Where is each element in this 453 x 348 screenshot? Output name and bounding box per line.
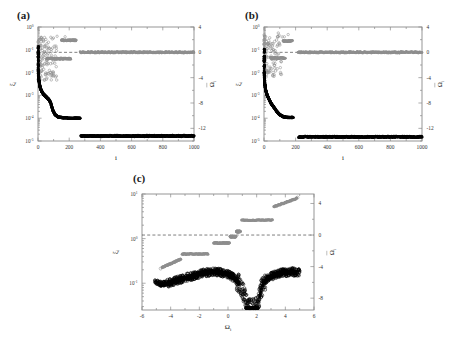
x-axis-title: Ωi — [225, 323, 232, 332]
panel-a: (a) 0200400600800100010010-110-210-310-4… — [0, 0, 226, 180]
y-left-tick-label: 100 — [27, 24, 34, 30]
y-left-tick-label: 10-5 — [25, 138, 33, 144]
ticks: -6-4-2024610110010-140-4-8 — [129, 191, 323, 319]
y-left-tick-label: 100 — [131, 236, 138, 242]
x-tick-label: 1000 — [189, 144, 200, 150]
y-left-tick-label: 10-1 — [25, 47, 33, 53]
x-tick-label: -4 — [168, 313, 173, 319]
x-tick-label: -2 — [197, 313, 202, 319]
svg-text:Ωi: Ωi — [436, 80, 445, 87]
black-cloud — [153, 267, 301, 310]
y-left-tick-label: 10-4 — [251, 115, 259, 121]
x-tick-label: 4 — [284, 313, 287, 319]
y-left-tick-label: 10-2 — [25, 70, 33, 76]
panel-b-plot: 0200400600800100010010-110-210-310-410-5… — [226, 0, 453, 180]
x-tick-label: 2 — [255, 313, 258, 319]
y-right-tick-label: -4 — [319, 264, 324, 270]
x-axis-title: i — [342, 154, 344, 162]
x-axis-title: i — [115, 154, 117, 162]
x-tick-label: 800 — [386, 144, 394, 150]
y-left-tick-label: 10-2 — [251, 70, 259, 76]
x-tick-label: 400 — [323, 144, 331, 150]
x-tick-label: 400 — [96, 144, 104, 150]
y-axis-left-title: ξi — [234, 81, 243, 86]
y-left-tick-label: 10-3 — [251, 92, 259, 98]
x-tick-label: 200 — [65, 144, 73, 150]
y-axis-right-title: Ωi — [327, 248, 337, 255]
x-tick-label: 800 — [159, 144, 167, 150]
y-right-tick-label: -4 — [199, 75, 204, 81]
y-left-tick-label: 10-3 — [25, 92, 33, 98]
y-left-tick-label: 10-5 — [251, 138, 259, 144]
panel-b: (b) 0200400600800100010010-110-210-310-4… — [226, 0, 453, 180]
y-right-tick-label: 4 — [199, 24, 202, 30]
gray-staircase — [159, 196, 299, 270]
y-right-tick-label: -12 — [199, 125, 206, 131]
svg-text:Ωi: Ωi — [328, 248, 337, 255]
x-tick-label: 600 — [355, 144, 363, 150]
y-right-tick-label: 4 — [427, 24, 430, 30]
y-right-tick-label: -4 — [427, 75, 432, 81]
panel-c-plot: -6-4-2024610110010-140-4-8ΩiξiΩi — [100, 172, 353, 348]
panel-a-label: (a) — [17, 9, 30, 21]
y-right-tick-label: 0 — [319, 232, 322, 238]
x-tick-label: 0 — [37, 144, 40, 150]
y-axis-left-title: ξi — [8, 81, 17, 86]
y-left-tick-label: 10-1 — [251, 47, 259, 53]
y-axis-left-title: ξi — [111, 249, 120, 254]
y-right-tick-label: -8 — [199, 100, 204, 106]
ticks: 0200400600800100010010-110-210-310-410-5… — [251, 24, 434, 150]
y-right-tick-label: -8 — [319, 295, 324, 301]
x-tick-label: 1000 — [417, 144, 428, 150]
black-series — [263, 48, 424, 139]
y-left-tick-label: 101 — [131, 191, 138, 197]
x-tick-label: 0 — [263, 144, 266, 150]
x-tick-label: 6 — [313, 313, 316, 319]
gray-series — [37, 35, 196, 81]
y-right-tick-label: -8 — [427, 100, 432, 106]
x-tick-label: 0 — [227, 313, 230, 319]
y-axis-right-title: Ωi — [207, 80, 217, 87]
panel-a-plot: 0200400600800100010010-110-210-310-410-5… — [0, 0, 226, 180]
x-tick-label: 600 — [128, 144, 136, 150]
panel-c: (c) -6-4-2024610110010-140-4-8ΩiξiΩi — [100, 172, 353, 348]
y-right-tick-label: 0 — [427, 49, 430, 55]
svg-text:Ωi: Ωi — [208, 80, 217, 87]
x-tick-label: 200 — [292, 144, 300, 150]
y-left-tick-label: 10-1 — [129, 280, 137, 286]
panel-b-label: (b) — [245, 9, 258, 21]
gray-series — [263, 32, 424, 79]
y-axis-right-title: Ωi — [435, 80, 445, 87]
panel-c-label: (c) — [133, 172, 145, 184]
y-right-tick-label: 0 — [199, 49, 202, 55]
ticks: 0200400600800100010010-110-210-310-410-5… — [25, 24, 206, 150]
x-tick-label: -6 — [140, 313, 145, 319]
y-left-tick-label: 10-4 — [25, 115, 33, 121]
y-right-tick-label: 4 — [319, 200, 322, 206]
y-right-tick-label: -12 — [427, 125, 434, 131]
y-left-tick-label: 100 — [253, 24, 260, 30]
